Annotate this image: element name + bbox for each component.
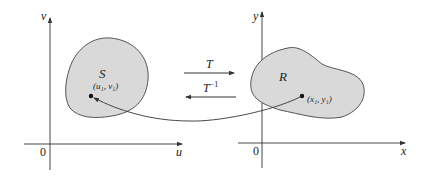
point-uv-label: (u₁, v₁) xyxy=(93,81,118,91)
region-s-label: S xyxy=(99,66,106,81)
forward-transform-label: T xyxy=(206,57,214,71)
point-uv xyxy=(89,94,93,98)
x-axis-label: x xyxy=(400,144,407,158)
uv-origin-label: 0 xyxy=(40,145,46,159)
region-r-label: R xyxy=(278,69,287,84)
v-axis-label: v xyxy=(41,9,47,23)
point-xy-label: (x₁, y₁) xyxy=(307,94,332,104)
u-axis-label: u xyxy=(176,145,182,159)
xy-plane: y x 0 R (x₁, y₁) xyxy=(238,9,407,168)
mapping-diagram: v u 0 S (u₁, v₁) T T−1 y x 0 R (x₁, y₁) xyxy=(0,0,425,182)
region-r xyxy=(251,47,365,118)
y-axis-label: y xyxy=(252,9,259,23)
region-s xyxy=(66,38,149,118)
inverse-transform-label: T−1 xyxy=(203,80,218,95)
point-xy xyxy=(300,94,304,98)
transform-arrows: T T−1 xyxy=(184,57,236,97)
uv-plane: v u 0 S (u₁, v₁) xyxy=(24,9,182,170)
xy-origin-label: 0 xyxy=(253,144,259,158)
